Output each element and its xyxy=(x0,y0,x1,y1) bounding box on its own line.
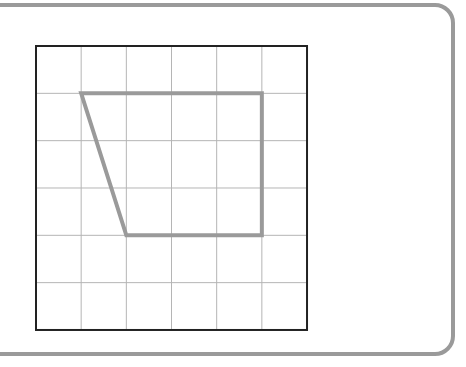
grid-lines xyxy=(36,46,307,330)
grid-diagram xyxy=(0,0,466,367)
